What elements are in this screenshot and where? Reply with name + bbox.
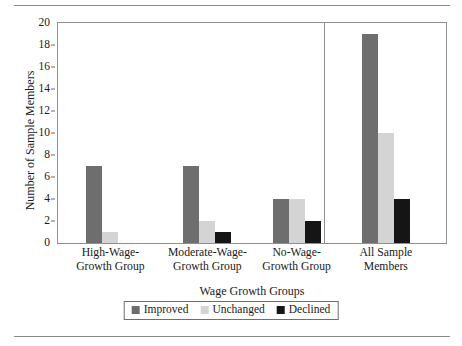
y-axis-tick-label: 16 bbox=[39, 61, 51, 73]
y-axis-tick-label: 2 bbox=[44, 215, 50, 227]
x-axis-group-label-line: Members bbox=[359, 260, 412, 274]
x-axis-group-label: Moderate-Wage-Growth Group bbox=[168, 246, 247, 275]
y-axis-tick-labels: 02468101214161820 bbox=[22, 22, 55, 244]
chart-legend: ImprovedUnchangedDeclined bbox=[124, 301, 339, 320]
group-divider-line bbox=[324, 23, 325, 243]
improved-swatch bbox=[132, 306, 140, 314]
legend-item-improved[interactable]: Improved bbox=[132, 304, 189, 316]
y-axis-tick-label: 18 bbox=[39, 39, 51, 51]
x-axis-group-label-line: High-Wage- bbox=[82, 246, 139, 259]
bar-declined-3 bbox=[305, 221, 321, 243]
y-axis-tick-label: 14 bbox=[39, 83, 51, 95]
y-axis-tick-label: 8 bbox=[44, 149, 50, 161]
bar-improved-3 bbox=[273, 199, 289, 243]
legend-label: Unchanged bbox=[212, 304, 264, 316]
bar-unchanged-1 bbox=[102, 232, 118, 243]
x-axis-group-label: High-Wage-Growth Group bbox=[76, 246, 145, 275]
y-axis-tick-label: 10 bbox=[39, 127, 51, 139]
x-axis-group-label: All SampleMembers bbox=[359, 246, 412, 275]
y-axis-tick-mark bbox=[51, 155, 55, 156]
declined-swatch bbox=[277, 306, 285, 314]
y-axis-tick-label: 12 bbox=[39, 105, 51, 117]
x-axis-group-label-line: No-Wage- bbox=[272, 246, 320, 259]
x-axis-group-label-line: All Sample bbox=[359, 246, 412, 259]
x-axis-group-label-line: Growth Group bbox=[262, 260, 331, 274]
bar-unchanged-4 bbox=[378, 133, 394, 243]
y-axis-tick-mark bbox=[51, 45, 55, 46]
legend-label: Improved bbox=[144, 304, 189, 316]
bottom-horizontal-rule bbox=[14, 336, 450, 337]
bar-improved-1 bbox=[86, 166, 102, 243]
legend-item-declined[interactable]: Declined bbox=[277, 304, 331, 316]
plot-area bbox=[57, 22, 447, 244]
y-axis-tick-label: 4 bbox=[44, 193, 50, 205]
x-axis-group-label-line: Moderate-Wage- bbox=[168, 246, 247, 259]
figure-container: Number of Sample Members 024681012141618… bbox=[0, 0, 462, 346]
y-axis-tick-mark bbox=[51, 199, 55, 200]
y-axis-tick-mark bbox=[51, 133, 55, 134]
bar-unchanged-3 bbox=[289, 199, 305, 243]
plot-inner-surface bbox=[58, 23, 446, 243]
unchanged-swatch bbox=[200, 306, 208, 314]
x-axis-group-label: No-Wage-Growth Group bbox=[262, 246, 331, 275]
legend-item-unchanged[interactable]: Unchanged bbox=[200, 304, 264, 316]
x-axis-group-labels: High-Wage-Growth GroupModerate-Wage-Grow… bbox=[57, 246, 447, 284]
bar-improved-4 bbox=[362, 34, 378, 243]
x-axis-group-label-line: Growth Group bbox=[76, 260, 145, 274]
y-axis-tick-mark bbox=[51, 67, 55, 68]
bar-unchanged-2 bbox=[199, 221, 215, 243]
bar-declined-4 bbox=[394, 199, 410, 243]
legend-label: Declined bbox=[289, 304, 331, 316]
y-axis-tick-mark bbox=[51, 177, 55, 178]
y-axis-tick-mark bbox=[51, 221, 55, 222]
y-axis-tick-label: 20 bbox=[39, 17, 51, 29]
x-axis-title: Wage Growth Groups bbox=[57, 284, 447, 299]
x-axis-group-label-line: Growth Group bbox=[168, 260, 247, 274]
bar-improved-2 bbox=[183, 166, 199, 243]
y-axis-tick-mark bbox=[51, 89, 55, 90]
y-axis-tick-label: 6 bbox=[44, 171, 50, 183]
y-axis-tick-label: 0 bbox=[44, 237, 50, 249]
top-horizontal-rule bbox=[14, 5, 450, 6]
bar-declined-2 bbox=[215, 232, 231, 243]
y-axis-tick-mark bbox=[51, 111, 55, 112]
